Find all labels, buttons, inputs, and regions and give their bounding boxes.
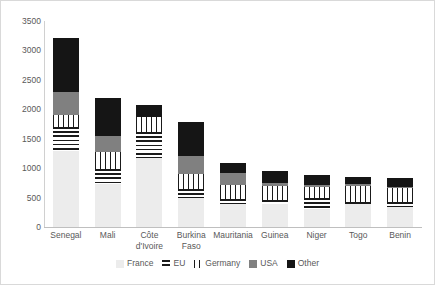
bar-segment-france[interactable]	[304, 209, 330, 227]
bar-segment-germany[interactable]	[220, 185, 246, 199]
x-tick-label: Côted'Ivoire	[129, 230, 171, 252]
y-tick-label: 1000	[3, 164, 41, 173]
legend-label: France	[127, 259, 153, 268]
bar-segment-usa[interactable]	[53, 92, 79, 116]
other-swatch	[287, 260, 295, 268]
bar-segment-germany[interactable]	[345, 186, 371, 202]
y-tick-label: 500	[3, 193, 41, 202]
bar-segment-germany[interactable]	[136, 117, 162, 132]
x-tick-label: Mauritania	[212, 230, 254, 241]
eu-swatch	[162, 260, 170, 268]
france-swatch	[116, 260, 124, 268]
bar-c-te-d-ivoire[interactable]	[95, 98, 121, 227]
legend-label: EU	[173, 259, 185, 268]
bar-segment-germany[interactable]	[53, 115, 79, 127]
bar-segment-eu[interactable]	[136, 132, 162, 158]
bar-segment-germany[interactable]	[178, 174, 204, 189]
bar-togo[interactable]	[345, 177, 371, 227]
legend-label: USA	[260, 259, 277, 268]
bar-segment-other[interactable]	[345, 177, 371, 184]
bar-senegal[interactable]	[53, 38, 79, 227]
y-tick-label: 0	[3, 223, 41, 232]
legend-item-usa[interactable]: USA	[249, 259, 277, 268]
bar-mauritania[interactable]	[220, 163, 246, 227]
y-axis-tick-labels: 3500300025002000150010005000	[1, 21, 41, 227]
bar-segment-other[interactable]	[387, 178, 413, 187]
stacked-bar-chart: 3500300025002000150010005000 SenegalMali…	[0, 0, 435, 285]
y-tick-label: 2500	[3, 75, 41, 84]
bar-segment-germany[interactable]	[95, 152, 121, 170]
bar-niger[interactable]	[304, 175, 330, 227]
x-tick-label: Senegal	[45, 230, 87, 241]
usa-swatch	[249, 260, 257, 268]
y-tick-label: 3500	[3, 17, 41, 26]
bar-segment-france[interactable]	[53, 151, 79, 228]
plot-area	[45, 21, 421, 227]
x-tick-label: Guinea	[254, 230, 296, 241]
bar-segment-other[interactable]	[178, 122, 204, 156]
bar-segment-usa[interactable]	[178, 156, 204, 174]
bar-guinea[interactable]	[262, 171, 288, 227]
germany-swatch	[194, 260, 202, 268]
bar-segment-other[interactable]	[136, 105, 162, 117]
y-tick-label: 2000	[3, 105, 41, 114]
bar-segment-other[interactable]	[95, 98, 121, 136]
bar-segment-other[interactable]	[304, 175, 330, 184]
y-tick-label: 1500	[3, 134, 41, 143]
bar-segment-other[interactable]	[53, 38, 79, 92]
bar-segment-france[interactable]	[220, 204, 246, 227]
bar-segment-usa[interactable]	[220, 173, 246, 185]
legend-label: Germany	[205, 259, 240, 268]
bar-segment-france[interactable]	[136, 158, 162, 227]
y-tick-label: 3000	[3, 46, 41, 55]
legend-item-france[interactable]: France	[116, 259, 153, 268]
bar-segment-france[interactable]	[95, 184, 121, 227]
bar-segment-france[interactable]	[178, 198, 204, 227]
legend-item-germany[interactable]: Germany	[194, 259, 240, 268]
bar-segment-eu[interactable]	[178, 189, 204, 198]
bar-segment-france[interactable]	[387, 207, 413, 227]
x-tick-label: BurkinaFaso	[170, 230, 212, 252]
bar-segment-usa[interactable]	[95, 136, 121, 152]
bar-segment-france[interactable]	[262, 204, 288, 227]
legend-item-eu[interactable]: EU	[162, 259, 185, 268]
bar-segment-eu[interactable]	[304, 198, 330, 209]
x-tick-label: Niger	[296, 230, 338, 241]
bar-segment-germany[interactable]	[387, 188, 413, 202]
x-axis-tick-labels: SenegalMaliCôted'IvoireBurkinaFasoMaurit…	[45, 230, 421, 260]
bar-segment-france[interactable]	[345, 204, 371, 227]
bar-segment-germany[interactable]	[304, 187, 330, 198]
bar-mali[interactable]	[136, 105, 162, 227]
x-tick-label: Togo	[337, 230, 379, 241]
legend-item-other[interactable]: Other	[287, 259, 319, 268]
bar-segment-other[interactable]	[262, 171, 288, 183]
bar-segment-other[interactable]	[220, 163, 246, 173]
legend-label: Other	[298, 259, 319, 268]
bar-segment-germany[interactable]	[262, 186, 288, 200]
x-tick-label: Mali	[87, 230, 129, 241]
bar-segment-eu[interactable]	[53, 127, 79, 151]
bar-segment-eu[interactable]	[95, 169, 121, 184]
bar-benin[interactable]	[387, 178, 413, 227]
bar-burkina-faso[interactable]	[178, 122, 204, 227]
x-tick-label: Benin	[379, 230, 421, 241]
x-axis-line	[44, 227, 422, 228]
chart-legend: FranceEUGermanyUSAOther	[1, 259, 434, 268]
